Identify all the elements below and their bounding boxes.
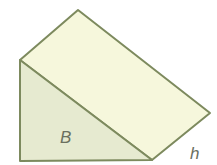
triangular-prism-diagram: B h xyxy=(0,0,217,165)
height-label: h xyxy=(190,144,199,163)
base-label: B xyxy=(60,128,71,147)
